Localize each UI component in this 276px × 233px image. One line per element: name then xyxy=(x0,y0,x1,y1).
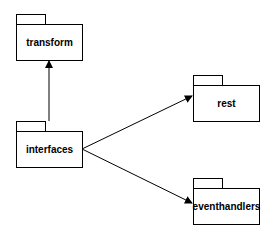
arrow-interfaces-to-rest xyxy=(82,96,192,149)
diagram-canvas: transform interfaces rest eventhandlers xyxy=(0,0,276,233)
package-body: interfaces xyxy=(16,131,83,168)
package-body: transform xyxy=(16,24,83,61)
package-label: interfaces xyxy=(26,144,73,155)
package-label: transform xyxy=(26,37,73,48)
package-tab xyxy=(16,14,46,24)
arrow-interfaces-to-eventhandlers xyxy=(82,149,192,203)
package-body: eventhandlers xyxy=(193,188,260,225)
package-tab xyxy=(193,178,223,188)
package-body: rest xyxy=(193,85,260,122)
package-tab xyxy=(16,121,46,131)
package-tab xyxy=(193,75,223,85)
package-label: rest xyxy=(217,98,235,109)
package-label: eventhandlers xyxy=(193,201,261,212)
